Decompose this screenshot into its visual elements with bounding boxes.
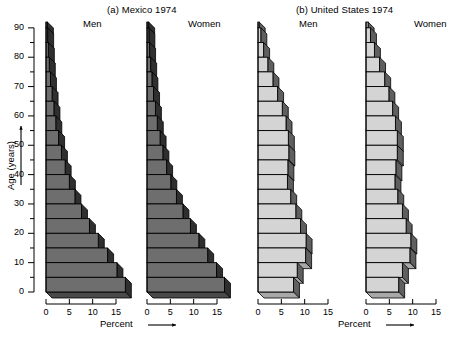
x-tick-label: 5 <box>160 307 180 317</box>
bar-front-face <box>147 263 217 278</box>
bar-front-face <box>366 28 370 43</box>
bar-front-face <box>147 219 190 234</box>
chart-canvas <box>0 0 474 346</box>
x-tick-label: 15 <box>318 307 338 317</box>
bar-front-face <box>147 57 151 72</box>
bar-front-face <box>258 189 291 204</box>
bar-front-face <box>258 131 288 146</box>
sex-label-mexico-women: Women <box>188 18 221 29</box>
bar-front-face <box>258 233 306 248</box>
panel-title-united-states: (b) United States 1974 <box>296 4 393 15</box>
bar-front-face <box>147 72 152 87</box>
x-tick-label: 10 <box>295 307 315 317</box>
bar-front-face <box>366 160 396 175</box>
bar-front-face <box>147 248 208 263</box>
bar-front-face <box>258 72 273 87</box>
bar-front-face <box>147 145 163 160</box>
sex-label-mexico-men: Men <box>83 18 101 29</box>
arrow-head <box>172 323 176 326</box>
bar-mexico-men-0-4 <box>46 277 131 298</box>
bar-front-face <box>366 145 397 160</box>
bar-front-face <box>366 189 398 204</box>
population-pyramid-figure: (a) Mexico 1974 (b) United States 1974 M… <box>0 0 474 346</box>
bar-front-face <box>366 43 374 58</box>
bar-front-face <box>366 248 410 263</box>
bar-front-face <box>258 160 288 175</box>
x-tick-label: 5 <box>59 307 79 317</box>
x-tick-label: 15 <box>207 307 227 317</box>
bar-front-face <box>147 160 167 175</box>
panel-title-mexico: (a) Mexico 1974 <box>107 4 177 15</box>
bar-front-face <box>147 116 157 131</box>
y-tick-label: 10 <box>10 257 24 267</box>
bar-front-face <box>258 145 289 160</box>
x-tick-label: 0 <box>248 307 268 317</box>
arrow-head <box>19 126 22 130</box>
bar-front-face <box>366 116 395 131</box>
bar-bottom-face <box>258 292 299 298</box>
bar-front-face <box>366 204 402 219</box>
y-tick-label: 80 <box>10 51 24 61</box>
bar-front-face <box>258 175 287 190</box>
x-axis-arrow-us <box>386 323 414 326</box>
bar-front-face <box>147 131 160 146</box>
bar-front-face <box>258 43 264 58</box>
bar-front-face <box>366 219 406 234</box>
bar-front-face <box>258 248 306 263</box>
bar-front-face <box>366 131 397 146</box>
bar-front-face <box>46 87 52 102</box>
y-tick-label: 50 <box>10 139 24 149</box>
bar-front-face <box>46 277 125 292</box>
bar-front-face <box>258 87 278 102</box>
bar-front-face <box>258 219 300 234</box>
bar-bottom-face <box>366 292 405 298</box>
bar-bottom-face <box>46 292 131 298</box>
bar-front-face <box>147 101 155 116</box>
x-tick-label: 15 <box>426 307 446 317</box>
x-tick-label: 5 <box>379 307 399 317</box>
x-axis-arrow-mexico <box>148 323 176 326</box>
bar-front-face <box>46 233 98 248</box>
bar-bottom-face <box>147 292 230 298</box>
sex-label-us-women: Women <box>414 18 447 29</box>
y-tick-label: 90 <box>10 22 24 32</box>
bar-front-face <box>258 277 293 292</box>
bar-front-face <box>366 263 402 278</box>
bar-front-face <box>366 87 389 102</box>
bar-front-face <box>366 175 395 190</box>
bar-front-face <box>258 116 286 131</box>
sex-label-us-men: Men <box>299 18 317 29</box>
bar-front-face <box>366 72 385 87</box>
bar-front-face <box>46 263 117 278</box>
y-tick-label: 40 <box>10 169 24 179</box>
x-axis-label-us: Percent <box>338 318 371 329</box>
bar-front-face <box>46 189 75 204</box>
x-tick-label: 0 <box>137 307 157 317</box>
bar-front-face <box>147 175 171 190</box>
bar-front-face <box>366 101 393 116</box>
bar-front-face <box>147 204 183 219</box>
x-tick-label: 15 <box>106 307 126 317</box>
bar-front-face <box>46 160 65 175</box>
arrow-head <box>410 323 414 326</box>
bar-front-face <box>147 277 224 292</box>
x-tick-label: 10 <box>403 307 423 317</box>
bar-front-face <box>46 131 59 146</box>
y-tick-label: 0 <box>10 286 24 296</box>
y-tick-label: 60 <box>10 110 24 120</box>
bar-front-face <box>258 57 268 72</box>
bar-mexico-women-0-4 <box>147 277 230 298</box>
bar-front-face <box>46 248 108 263</box>
bar-front-face <box>46 175 69 190</box>
x-axis-label-mexico: Percent <box>100 318 133 329</box>
x-tick-label: 5 <box>271 307 291 317</box>
bar-front-face <box>366 233 411 248</box>
bar-front-face <box>46 219 89 234</box>
y-tick-label: 30 <box>10 198 24 208</box>
bar-front-face <box>46 145 61 160</box>
bar-front-face <box>366 57 380 72</box>
bar-front-face <box>366 277 399 292</box>
bars-layer <box>46 22 417 298</box>
y-tick-label: 70 <box>10 81 24 91</box>
x-tick-label: 10 <box>83 307 103 317</box>
